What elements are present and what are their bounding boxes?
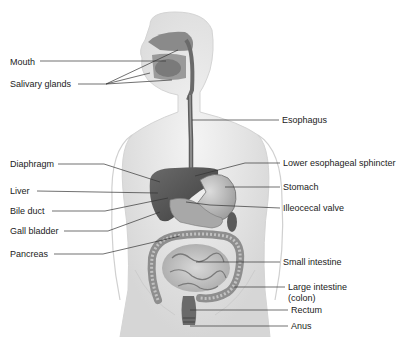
label-small-intestine: Small intestine [283,257,342,267]
label-lower-esophageal-sphincter: Lower esophageal sphincter [283,158,396,168]
label-esophagus: Esophagus [282,115,327,125]
small-intestine [162,244,230,292]
label-colon: (colon) [288,293,316,303]
label-large-intestine: Large intestine [288,282,347,292]
rectum [182,296,197,325]
label-salivary-glands: Salivary glands [10,79,71,89]
label-rectum: Rectum [291,305,322,315]
label-mouth: Mouth [10,57,35,67]
digestive-system-diagram: Mouth Salivary glands Diaphragm Liver Bi… [0,0,403,337]
label-liver: Liver [10,186,30,196]
label-stomach: Stomach [283,182,319,192]
label-anus: Anus [291,321,312,331]
label-diaphragm: Diaphragm [10,159,54,169]
label-bile-duct: Bile duct [10,206,45,216]
label-gall-bladder: Gall bladder [10,226,59,236]
label-pancreas: Pancreas [10,249,48,259]
label-illeocecal-valve: Illeocecal valve [283,203,344,213]
